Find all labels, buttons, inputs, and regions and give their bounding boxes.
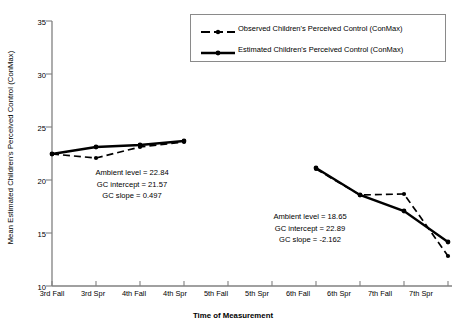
- annotation-left-segment-stats: Ambient level = 22.84 GC intercept = 21.…: [72, 167, 192, 202]
- legend-key-solid-icon: [201, 44, 235, 54]
- legend-item-estimated: Estimated Children's Perceived Control (…: [201, 43, 403, 55]
- annotation-right-segment-stats: Ambient level = 18.65 GC intercept = 22.…: [244, 211, 376, 246]
- legend-label-observed: Observed Children's Perceived Control (C…: [238, 24, 402, 33]
- chart-figure: Mean Estimated Children's Perceived Cont…: [0, 0, 466, 333]
- legend-item-observed: Observed Children's Perceived Control (C…: [201, 22, 402, 34]
- legend-label-estimated: Estimated Children's Perceived Control (…: [238, 45, 403, 54]
- chart-legend: Observed Children's Perceived Control (C…: [190, 14, 446, 62]
- annotation-right-line-2: GC slope = -2.162: [244, 234, 376, 246]
- annotation-left-line-1: GC intercept = 21.57: [72, 179, 192, 191]
- x-axis-ticks: [52, 281, 448, 286]
- annotation-right-line-0: Ambient level = 18.65: [244, 211, 376, 223]
- annotation-left-line-0: Ambient level = 22.84: [72, 167, 192, 179]
- x-axis-title: Time of Measurement: [0, 311, 466, 320]
- legend-key-dashed-icon: [201, 23, 235, 33]
- annotation-left-line-2: GC slope = 0.497: [72, 190, 192, 202]
- annotation-right-line-1: GC intercept = 22.89: [244, 223, 376, 235]
